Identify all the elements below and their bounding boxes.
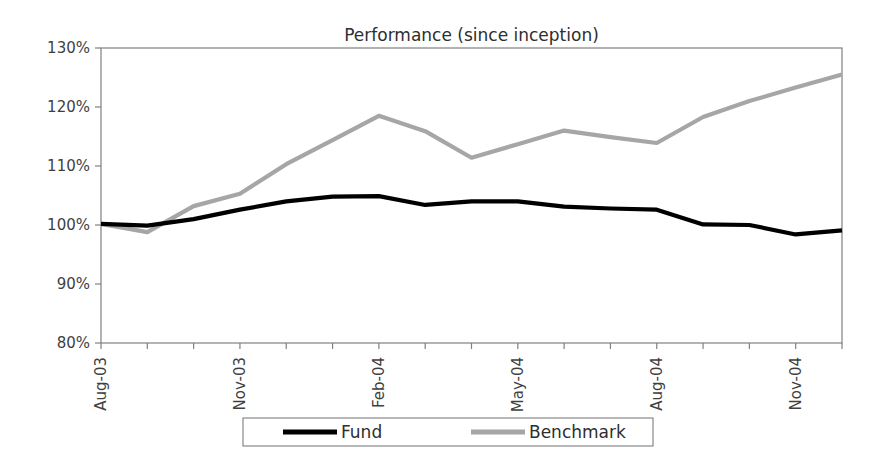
- x-axis-tick-label: Nov-04: [787, 357, 805, 410]
- y-axis-tick-label: 100%: [47, 216, 90, 234]
- y-axis-tick-label: 110%: [47, 157, 90, 175]
- x-axis-tick-label: Aug-03: [92, 357, 110, 411]
- legend-label-fund: Fund: [341, 422, 382, 442]
- y-axis-tick-label: 80%: [57, 334, 90, 352]
- plot-area-border: [101, 48, 842, 343]
- x-axis-tick-label: Feb-04: [370, 357, 388, 408]
- series-line-benchmark: [101, 75, 842, 233]
- y-axis-tick-label: 90%: [57, 275, 90, 293]
- x-axis-tick-label: May-04: [509, 357, 527, 412]
- chart-canvas: Performance (since inception)130%120%110…: [0, 0, 891, 466]
- x-axis-tick-label: Nov-03: [231, 357, 249, 410]
- y-axis-tick-label: 120%: [47, 98, 90, 116]
- performance-chart: Performance (since inception)130%120%110…: [0, 0, 891, 466]
- x-axis-tick-label: Aug-04: [648, 357, 666, 411]
- y-axis-tick-label: 130%: [47, 39, 90, 57]
- chart-title: Performance (since inception): [344, 25, 599, 45]
- legend-label-benchmark: Benchmark: [529, 422, 626, 442]
